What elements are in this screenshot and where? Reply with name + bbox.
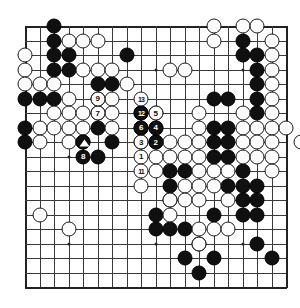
go-diagram: 123456789111213	[0, 0, 300, 308]
white-stone	[105, 62, 120, 77]
black-stone	[163, 164, 178, 179]
white-stone	[206, 178, 221, 193]
white-stone	[32, 135, 47, 150]
white-stone	[192, 149, 207, 164]
white-stone	[235, 19, 250, 34]
grid-line-horizontal	[25, 258, 287, 259]
marked-stone-triangle	[76, 135, 91, 150]
black-stone	[250, 48, 265, 63]
black-stone	[264, 251, 279, 266]
black-stone	[18, 91, 33, 106]
white-stone	[192, 222, 207, 237]
star-point	[241, 242, 244, 245]
black-stone	[235, 33, 250, 48]
black-stone	[206, 135, 221, 150]
white-stone	[90, 62, 105, 77]
white-stone	[235, 149, 250, 164]
white-stone	[206, 222, 221, 237]
star-point	[154, 68, 157, 71]
white-stone	[76, 106, 91, 121]
white-stone	[250, 135, 265, 150]
move-stone-4: 4	[148, 120, 163, 135]
black-stone	[61, 62, 76, 77]
black-stone	[235, 178, 250, 193]
white-stone	[76, 120, 91, 135]
white-stone	[192, 164, 207, 179]
black-stone	[192, 265, 207, 280]
move-stone-11: 11	[134, 164, 149, 179]
move-stone-13: 13	[134, 91, 149, 106]
grid-line-vertical	[286, 26, 288, 288]
move-stone-12: 12	[134, 106, 149, 121]
white-stone	[177, 62, 192, 77]
white-stone	[264, 62, 279, 77]
white-stone	[105, 91, 120, 106]
black-stone	[221, 178, 236, 193]
white-stone	[163, 207, 178, 222]
white-stone	[192, 106, 207, 121]
black-stone	[250, 91, 265, 106]
white-stone	[163, 62, 178, 77]
white-stone	[32, 120, 47, 135]
white-stone	[47, 77, 62, 92]
move-stone-6: 6	[134, 120, 149, 135]
white-stone	[250, 149, 265, 164]
white-stone	[177, 149, 192, 164]
white-stone	[250, 19, 265, 34]
white-stone	[119, 77, 134, 92]
black-stone	[221, 120, 236, 135]
white-stone	[61, 106, 76, 121]
white-stone	[134, 178, 149, 193]
move-stone-9: 9	[90, 91, 105, 106]
white-stone	[163, 135, 178, 150]
move-stone-5: 5	[148, 106, 163, 121]
black-stone	[61, 48, 76, 63]
white-stone	[18, 77, 33, 92]
white-stone	[221, 193, 236, 208]
black-stone	[47, 48, 62, 63]
black-stone	[90, 120, 105, 135]
black-stone	[177, 164, 192, 179]
black-stone	[250, 178, 265, 193]
white-stone	[264, 48, 279, 63]
white-stone	[192, 236, 207, 251]
black-stone	[221, 135, 236, 150]
white-stone	[221, 222, 236, 237]
move-stone-3: 3	[134, 135, 149, 150]
black-stone	[90, 77, 105, 92]
white-stone	[235, 106, 250, 121]
move-stone-1: 1	[134, 149, 149, 164]
black-stone	[47, 91, 62, 106]
white-stone	[61, 222, 76, 237]
white-stone	[32, 207, 47, 222]
white-stone	[76, 33, 91, 48]
white-stone	[279, 120, 294, 135]
white-stone	[192, 120, 207, 135]
black-stone	[235, 193, 250, 208]
white-stone	[47, 106, 62, 121]
white-stone	[206, 19, 221, 34]
black-stone	[206, 91, 221, 106]
white-stone	[264, 77, 279, 92]
black-stone	[221, 149, 236, 164]
black-stone	[119, 48, 134, 63]
white-stone	[47, 120, 62, 135]
black-stone	[148, 207, 163, 222]
white-stone	[90, 33, 105, 48]
white-stone	[76, 62, 91, 77]
white-stone	[206, 33, 221, 48]
white-stone	[18, 48, 33, 63]
black-stone	[250, 236, 265, 251]
black-stone	[206, 251, 221, 266]
white-stone	[105, 120, 120, 135]
black-stone	[250, 106, 265, 121]
white-stone	[105, 106, 120, 121]
white-stone	[177, 193, 192, 208]
white-stone	[264, 91, 279, 106]
white-stone	[163, 193, 178, 208]
star-point	[241, 68, 244, 71]
white-stone	[235, 120, 250, 135]
black-stone	[206, 207, 221, 222]
white-stone	[293, 135, 300, 150]
star-point	[67, 242, 70, 245]
